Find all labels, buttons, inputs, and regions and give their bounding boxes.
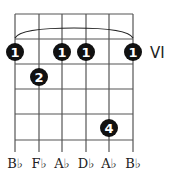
string-label: A♭ [53, 156, 70, 171]
svg-text:1: 1 [128, 45, 137, 60]
finger-dot: 1 [53, 43, 71, 61]
finger-dot: 1 [124, 43, 142, 61]
string-label: A♭ [100, 156, 117, 171]
chord-diagram: 1 1 1 1 2 4 VI B♭ F♭ A♭ D♭ A♭ B♭ [0, 0, 174, 176]
svg-text:2: 2 [34, 70, 43, 85]
finger-dot: 2 [30, 68, 48, 86]
string-label: F♭ [31, 156, 46, 171]
finger-dot: 4 [100, 119, 118, 137]
string-label: B♭ [7, 156, 23, 171]
string-labels: B♭ F♭ A♭ D♭ A♭ B♭ [7, 156, 141, 171]
finger-dot: 1 [77, 43, 95, 61]
fret-position-label: VI [150, 44, 165, 62]
string-label: B♭ [125, 156, 141, 171]
svg-text:1: 1 [57, 45, 66, 60]
string-label: D♭ [78, 156, 95, 171]
svg-text:4: 4 [104, 121, 113, 136]
barre-arc [15, 28, 133, 38]
finger-dot: 1 [6, 43, 24, 61]
svg-text:1: 1 [81, 45, 90, 60]
svg-text:1: 1 [10, 45, 19, 60]
